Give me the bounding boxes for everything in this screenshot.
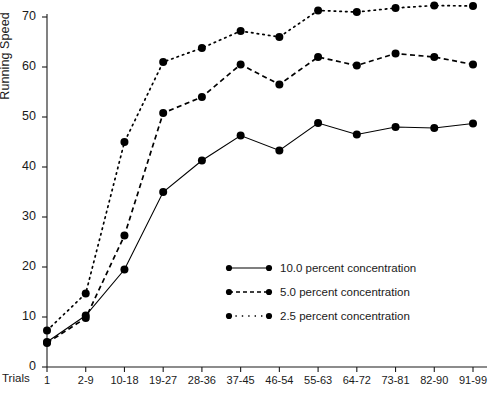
x-tick-label: 82-90 <box>420 374 448 386</box>
x-axis-ticks <box>47 367 473 372</box>
y-axis-ticks <box>42 17 47 367</box>
legend-item: 5.0 percent concentration <box>225 280 416 304</box>
data-point <box>159 188 167 196</box>
data-point <box>120 232 128 240</box>
x-tick-label: 10-18 <box>110 374 138 386</box>
data-point <box>469 2 477 10</box>
y-tick-label: 40 <box>8 159 36 173</box>
data-point <box>82 314 90 322</box>
y-tick-label: 30 <box>8 209 36 223</box>
x-tick-label: 2-9 <box>78 374 94 386</box>
y-tick-label: 70 <box>8 9 36 23</box>
x-tick-label: 19-27 <box>149 374 177 386</box>
x-tick-label: 1 <box>44 374 50 386</box>
x-tick-label: 91-99 <box>459 374 487 386</box>
data-point <box>353 62 361 70</box>
data-point <box>159 58 167 66</box>
x-tick-label: 73-81 <box>381 374 409 386</box>
data-point <box>392 50 400 58</box>
data-point <box>469 120 477 128</box>
x-tick-label: 28-36 <box>188 374 216 386</box>
legend-sample-dashed <box>225 286 273 298</box>
data-point <box>198 44 206 52</box>
y-tick-label: 0 <box>8 359 36 373</box>
legend-label-10pct: 10.0 percent concentration <box>280 262 416 274</box>
legend-sample-dotted <box>225 310 273 322</box>
data-point <box>392 4 400 12</box>
data-point <box>430 124 438 132</box>
data-point <box>469 61 477 69</box>
y-tick-label: 60 <box>8 59 36 73</box>
data-point <box>314 7 322 15</box>
data-point <box>275 33 283 41</box>
data-point <box>237 61 245 69</box>
y-tick-label: 20 <box>8 259 36 273</box>
data-point <box>82 290 90 298</box>
running-speed-line-chart: Running Speed Trials 010203040506070 12-… <box>0 0 492 396</box>
data-point <box>314 119 322 127</box>
y-tick-label: 10 <box>8 309 36 323</box>
data-point <box>430 2 438 10</box>
x-tick-label: 46-54 <box>265 374 293 386</box>
data-point <box>275 147 283 155</box>
x-tick-label: 55-63 <box>304 374 332 386</box>
data-point <box>353 131 361 139</box>
x-tick-label: 64-72 <box>343 374 371 386</box>
x-tick-label: 37-45 <box>227 374 255 386</box>
data-point <box>275 81 283 89</box>
data-point <box>43 327 51 335</box>
data-point <box>237 132 245 140</box>
data-point <box>314 53 322 61</box>
data-point <box>198 157 206 165</box>
data-point <box>120 138 128 146</box>
legend-label-5pct: 5.0 percent concentration <box>280 286 410 298</box>
legend-item: 10.0 percent concentration <box>225 256 416 280</box>
plot-area <box>0 0 492 396</box>
data-point <box>43 339 51 347</box>
data-point <box>159 109 167 117</box>
data-point <box>198 93 206 101</box>
data-point <box>392 123 400 131</box>
y-tick-label: 50 <box>8 109 36 123</box>
data-point <box>430 53 438 61</box>
chart-legend: 10.0 percent concentration 5.0 percent c… <box>225 256 416 328</box>
legend-label-2_5pct: 2.5 percent concentration <box>280 310 410 322</box>
legend-item: 2.5 percent concentration <box>225 304 416 328</box>
data-point <box>120 266 128 274</box>
data-point <box>353 8 361 16</box>
data-point <box>237 27 245 35</box>
legend-sample-solid <box>225 262 273 274</box>
